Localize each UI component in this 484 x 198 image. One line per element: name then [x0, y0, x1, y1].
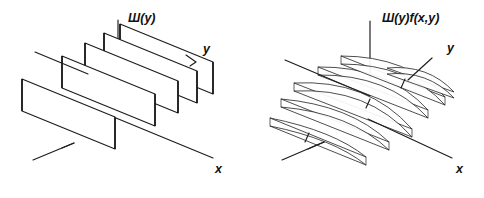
x-axis-line — [116, 118, 213, 158]
function-label-modulated-comb: Ш(y)f(x,y) — [382, 11, 439, 25]
front-guide-line-tip — [62, 143, 74, 148]
x-axis-label: x — [214, 162, 223, 176]
function-label-comb: Ш(y) — [128, 11, 156, 25]
y-axis-label: y — [446, 41, 455, 55]
x-axis-label: x — [455, 162, 464, 176]
comb-function-figure: Ш(y) y x — [0, 0, 484, 198]
modulated-comb-panel: Ш(y)f(x,y) y x — [242, 0, 484, 198]
comb-function-panel: Ш(y) y x — [0, 0, 242, 198]
y-axis-label: y — [202, 42, 211, 56]
